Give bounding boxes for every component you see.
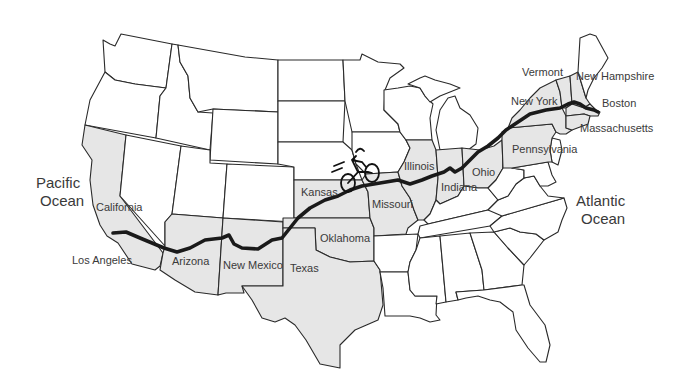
state-new-mexico: [218, 218, 283, 295]
state-label-new-hampshire: New Hampshire: [576, 70, 654, 82]
state-label-vermont: Vermont: [522, 66, 563, 78]
state-label-new-york: New York: [511, 95, 558, 107]
state-label-illinois: Illinois: [404, 160, 435, 172]
atlantic-ocean-label: Atlantic: [576, 192, 626, 209]
pacific-ocean-label-2: Ocean: [40, 192, 84, 209]
state-label-pennsylvania: Pennsylvania: [512, 143, 578, 155]
state-label-missouri: Missouri: [372, 198, 413, 210]
state-colorado: [223, 164, 294, 222]
us-route-map: Pacific Ocean Atlantic Ocean Los Angeles…: [0, 0, 687, 392]
state-maine: [578, 34, 608, 98]
state-label-oklahoma: Oklahoma: [320, 232, 371, 244]
state-label-california: California: [96, 201, 143, 213]
city-label-los-angeles: Los Angeles: [72, 254, 132, 266]
state-wyoming: [210, 109, 278, 164]
pacific-ocean-label: Pacific: [36, 174, 81, 191]
city-label-boston: Boston: [602, 97, 636, 109]
state-montana: [178, 45, 278, 112]
state-michigan: [436, 96, 478, 150]
atlantic-ocean-label-2: Ocean: [581, 210, 625, 227]
state-south-dakota: [278, 101, 345, 142]
state-label-texas: Texas: [290, 262, 319, 274]
state-florida: [456, 285, 550, 362]
state-label-arizona: Arizona: [172, 255, 210, 267]
state-label-new-mexico: New Mexico: [223, 259, 283, 271]
state-label-ohio: Ohio: [472, 166, 495, 178]
state-north-dakota: [278, 60, 345, 101]
state-label-massachusetts: Massachusetts: [580, 122, 654, 134]
state-label-indiana: Indiana: [441, 181, 478, 193]
state-label-kansas: Kansas: [301, 186, 338, 198]
